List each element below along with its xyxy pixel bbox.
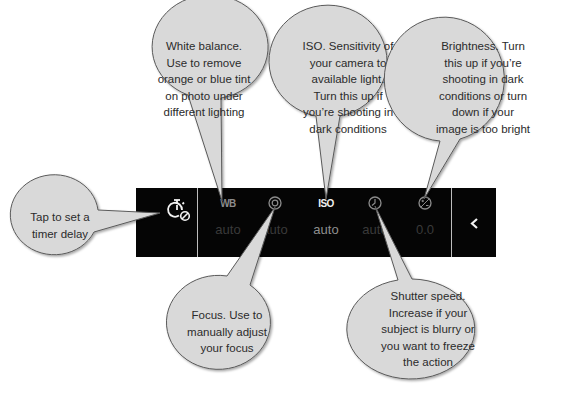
iso-value: auto xyxy=(301,222,351,237)
iso-label: ISO xyxy=(318,198,334,209)
shutter-callout-text: Shutter speed. Increase if your subject … xyxy=(366,288,490,371)
iso-callout-text: ISO. Sensitivity of your camera to avail… xyxy=(288,38,408,137)
exposure-icon xyxy=(418,196,432,210)
timer-off-icon xyxy=(136,188,197,257)
collapse-button[interactable] xyxy=(452,188,496,257)
white-balance-control[interactable]: WB auto xyxy=(203,188,253,257)
shutter-speed-control[interactable]: auto xyxy=(350,188,400,257)
shutter-speed-icon xyxy=(368,196,382,210)
iso-control[interactable]: ISO auto xyxy=(301,188,351,257)
brightness-value: 0.0 xyxy=(400,222,450,237)
focus-control[interactable]: auto xyxy=(250,188,300,257)
shutter-value: auto xyxy=(350,222,400,237)
focus-callout-text: Focus. Use to manually adjust your focus xyxy=(175,307,279,357)
brightness-control[interactable]: 0.0 xyxy=(400,188,450,257)
divider xyxy=(197,188,198,257)
wb-value: auto xyxy=(203,222,253,237)
wb-label: WB xyxy=(220,198,236,209)
brightness-callout-text: Brightness. Turn this up if you’re shoot… xyxy=(427,38,539,137)
timer-button[interactable] xyxy=(136,188,197,257)
camera-settings-toolbar: WB auto auto ISO auto auto xyxy=(136,188,496,257)
focus-icon xyxy=(268,196,282,210)
white-balance-callout-text: White balance. Use to remove orange or b… xyxy=(145,38,263,121)
focus-value: auto xyxy=(250,222,300,237)
chevron-left-icon xyxy=(452,188,496,257)
timer-callout-text: Tap to set a timer delay xyxy=(14,209,106,242)
